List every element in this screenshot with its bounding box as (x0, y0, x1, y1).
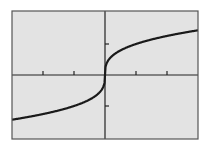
graph-window (0, 0, 209, 148)
